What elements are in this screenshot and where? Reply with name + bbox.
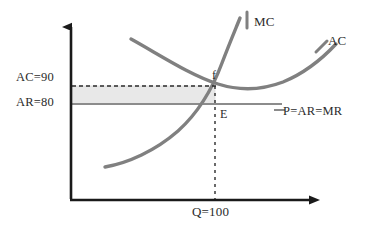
point-e-label: E: [220, 107, 228, 122]
ac-curve-label: AC: [328, 33, 346, 49]
ar-value-label: AR=80: [16, 95, 54, 110]
loss-shaded-area: [72, 86, 215, 104]
ac-label-leader: [316, 41, 327, 52]
quantity-label: Q=100: [192, 204, 229, 220]
economics-diagram: AC=90 AR=80 MC AC f E P=AR=MR Q=100: [0, 0, 370, 233]
mc-curve-label: MC: [254, 14, 275, 30]
price-line-label: P=AR=MR: [283, 104, 342, 119]
ac-curve: [131, 39, 336, 89]
ac-value-label: AC=90: [16, 70, 54, 85]
point-f-label: f: [212, 68, 216, 83]
